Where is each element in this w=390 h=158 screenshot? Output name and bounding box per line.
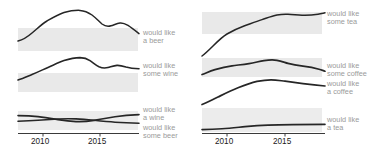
line-would-like-a-beer — [18, 10, 139, 41]
left-xtick-label-2015: 2015 — [88, 137, 106, 146]
right-lines-svg — [195, 0, 390, 158]
chart-figure: 2010 2015 would like a beer would like s… — [0, 0, 390, 158]
panel-right-column: 2010 2015 would like some tea would like… — [195, 0, 390, 158]
line-would-like-a-coffee — [202, 80, 325, 105]
right-xtick-label-2010: 2010 — [215, 137, 233, 146]
series-label-some-wine: would like some wine — [143, 62, 178, 79]
series-label-some-beer: would like some beer — [143, 124, 178, 141]
line-would-like-a-tea — [202, 124, 325, 129]
line-would-like-some-wine — [18, 58, 139, 80]
line-would-like-some-tea — [202, 13, 325, 56]
series-label-some-coffee: would like some coffee — [327, 62, 367, 79]
right-xtick-label-2015: 2015 — [273, 137, 291, 146]
series-label-a-wine: would like a wine — [143, 106, 175, 123]
line-would-like-some-coffee — [202, 60, 325, 75]
left-xtick-label-2010: 2010 — [31, 137, 49, 146]
series-label-a-coffee: would like a coffee — [327, 80, 359, 97]
series-label-some-tea: would like some tea — [327, 10, 359, 27]
series-label-a-beer: would like a beer — [143, 29, 175, 46]
series-label-a-tea: would like a tea — [327, 116, 359, 133]
panel-left-column: 2010 2015 would like a beer would like s… — [0, 0, 195, 158]
